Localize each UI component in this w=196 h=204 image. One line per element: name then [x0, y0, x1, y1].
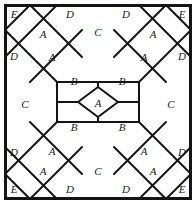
label-C-bottom: C — [94, 165, 102, 177]
tiling-figure: E A D C D A E D A A D B B C A C B B D A — [0, 0, 196, 204]
label-D-top-left: D — [65, 8, 74, 20]
label-E-top-left: E — [10, 8, 18, 20]
label-E-bottom-left: E — [10, 183, 18, 195]
label-A-bottom-left: A — [39, 165, 47, 177]
label-E-bottom-right: E — [178, 183, 186, 195]
label-C-right: C — [167, 98, 175, 110]
label-C-left: C — [21, 98, 29, 110]
label-A-upper-right-in: A — [140, 51, 148, 63]
label-E-top-right: E — [178, 8, 186, 20]
label-A-lower-left-in: A — [48, 145, 56, 157]
label-D-top-right: D — [121, 8, 130, 20]
label-D-left-bottom: D — [9, 146, 18, 158]
label-B-top-right: B — [119, 75, 126, 87]
label-A-upper-left-in: A — [48, 51, 56, 63]
label-B-bottom-left: B — [71, 121, 78, 133]
label-C-top: C — [94, 26, 102, 38]
label-A-bottom-right: A — [149, 165, 157, 177]
label-D-bottom-right: D — [121, 183, 130, 195]
label-A-top-left: A — [39, 28, 47, 40]
label-A-lower-right-in: A — [140, 145, 148, 157]
label-D-right-bottom: D — [177, 146, 186, 158]
label-A-center: A — [94, 97, 102, 109]
label-D-right-top: D — [177, 50, 186, 62]
label-B-top-left: B — [71, 75, 78, 87]
tiling-diagram-canvas: E A D C D A E D A A D B B C A C B B D A — [0, 0, 196, 204]
label-B-bottom-right: B — [119, 121, 126, 133]
label-D-bottom-left: D — [65, 183, 74, 195]
label-D-left-top: D — [9, 50, 18, 62]
label-A-top-right: A — [149, 28, 157, 40]
